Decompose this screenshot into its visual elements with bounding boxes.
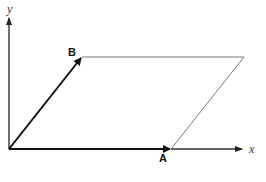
x-axis-label: x [248, 142, 255, 156]
y-axis-label: y [6, 2, 13, 16]
vector-a-label: A [159, 152, 167, 164]
vector-b-arrow [9, 58, 81, 149]
parallelogram-right-edge [171, 57, 244, 149]
parallelogram-vector-diagram: y x A B [0, 0, 266, 182]
vector-b-label: B [68, 46, 76, 58]
